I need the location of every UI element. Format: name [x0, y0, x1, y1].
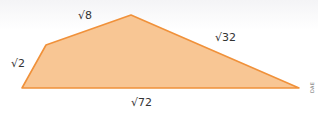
- label-side-bottom: √72: [131, 96, 152, 109]
- label-side-left: √2: [11, 57, 25, 70]
- quadrilateral-figure: [0, 0, 318, 115]
- quadrilateral-shape: [22, 15, 299, 88]
- label-side-top-left: √8: [78, 9, 92, 22]
- credit-text: DAE: [309, 82, 315, 93]
- label-side-top-right: √32: [215, 31, 236, 44]
